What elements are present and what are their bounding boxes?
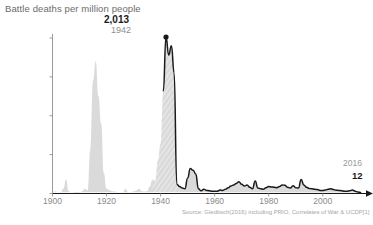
x-axis-tick-label: 1980 xyxy=(259,196,278,206)
area-fill xyxy=(53,37,361,193)
x-axis-tick-label: 1900 xyxy=(43,196,62,206)
area-fill-layer xyxy=(53,37,361,193)
peak-marker-dot xyxy=(163,34,168,39)
peak-value-label: 2,013 xyxy=(104,14,129,25)
x-axis-tick-label: 1960 xyxy=(205,196,224,206)
peak-year-label: 1942 xyxy=(111,25,131,35)
x-axis-tick-label: 1940 xyxy=(151,196,170,206)
end-year-label: 2016 xyxy=(343,158,362,168)
data-line-layer xyxy=(163,37,360,193)
end-value-label: 12 xyxy=(352,170,363,181)
source-note: Source: Gleditsch(2016) including PRIO, … xyxy=(182,209,370,215)
battle-deaths-line xyxy=(163,37,360,193)
battle-deaths-chart: Lorem ipsum dolor sit amet Battle deaths… xyxy=(0,0,373,225)
peak-marker-layer xyxy=(163,34,168,39)
x-axis-tick-label: 2000 xyxy=(313,196,332,206)
y-axis-labels: 05001,0001,5002,000 xyxy=(0,0,50,225)
x-axis-arrow-icon xyxy=(366,190,373,196)
chart-plot-area xyxy=(0,0,373,225)
x-axis-tick-label: 1920 xyxy=(97,196,116,206)
